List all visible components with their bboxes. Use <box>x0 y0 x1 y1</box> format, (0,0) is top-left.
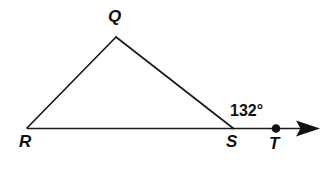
point-marker-T <box>272 124 281 133</box>
vertex-label-T: T <box>269 135 279 152</box>
vertex-label-R: R <box>19 133 31 150</box>
geometry-canvas <box>0 0 333 169</box>
angle-measure-label: 132° <box>230 103 263 119</box>
vertex-label-Q: Q <box>108 8 121 25</box>
segment-RQ <box>27 37 116 128</box>
segment-QS <box>116 37 234 129</box>
vertex-label-S: S <box>226 133 237 150</box>
geometry-figure: Q R S T 132° <box>0 0 333 169</box>
